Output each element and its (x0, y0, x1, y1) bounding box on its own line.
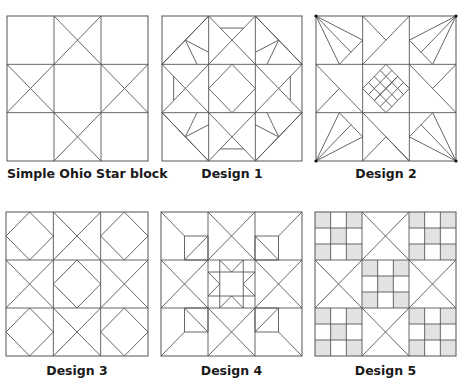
design-3-caption: Design 3 (6, 363, 148, 378)
ohio-star-caption: Simple Ohio Star block (7, 166, 148, 181)
design-4-caption: Design 4 (161, 363, 302, 378)
design-1-caption: Design 1 (162, 166, 302, 181)
design-5-caption: Design 5 (315, 363, 456, 378)
design-2-caption: Design 2 (316, 166, 456, 181)
design-5-block (315, 212, 456, 356)
design-4-block (161, 212, 302, 356)
design-3-block (6, 212, 148, 356)
design-2-block (316, 16, 456, 161)
design-1-block (162, 16, 302, 161)
ohio-star-block (7, 16, 148, 161)
